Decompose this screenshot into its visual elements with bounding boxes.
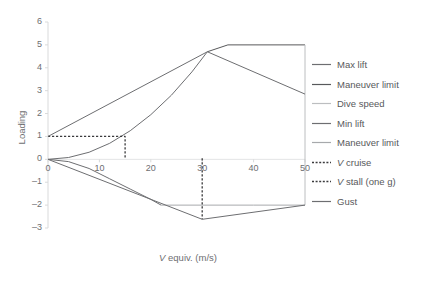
legend-label: V stall (one g): [337, 177, 396, 187]
y-axis-label: Loading: [16, 98, 27, 158]
x-axis-label: V equiv. (m/s): [108, 252, 268, 263]
legend-swatch-icon: [312, 138, 331, 147]
y-tick-label: 2: [20, 109, 42, 118]
y-tick-label: –1: [20, 177, 42, 186]
legend-item[interactable]: Maneuver limit: [312, 133, 426, 153]
x-tick-label: 10: [87, 164, 111, 173]
y-tick-label: 4: [20, 63, 42, 72]
legend-swatch-icon: [312, 119, 331, 128]
legend-item[interactable]: Max lift: [312, 55, 426, 75]
series-line-0: [48, 52, 207, 160]
series-line-7: [48, 52, 305, 137]
v-n-diagram-figure: Loading V equiv. (m/s) 6543210–1–2–3 010…: [0, 0, 428, 284]
legend-label: Maneuver limit: [337, 138, 399, 148]
legend-swatch-icon: [312, 177, 331, 186]
y-tick-label: 1: [20, 131, 42, 140]
y-tick-label: 3: [20, 86, 42, 95]
y-tick-label: –3: [20, 223, 42, 232]
series-line-1: [207, 45, 305, 52]
y-tick-label: 6: [20, 17, 42, 26]
legend-label: Dive speed: [337, 99, 385, 109]
legend-swatch-icon: [312, 158, 331, 167]
y-tick-label: –2: [20, 200, 42, 209]
legend-label: Min lift: [337, 119, 364, 129]
y-tick-label: 5: [20, 40, 42, 49]
chart-legend: Max liftManeuver limitDive speedMin lift…: [312, 55, 426, 211]
legend-item[interactable]: Dive speed: [312, 94, 426, 114]
legend-item[interactable]: Gust: [312, 192, 426, 212]
legend-item[interactable]: Maneuver limit: [312, 75, 426, 95]
legend-label: Max lift: [337, 60, 367, 70]
legend-label: Maneuver limit: [337, 80, 399, 90]
legend-label-symbol: V: [337, 157, 343, 168]
series-line-6: [48, 136, 125, 159]
legend-item[interactable]: Min lift: [312, 114, 426, 134]
legend-label: Gust: [337, 197, 357, 207]
x-tick-label: 0: [36, 164, 60, 173]
legend-label: V cruise: [337, 158, 371, 168]
y-tick-label: 0: [20, 154, 42, 163]
x-tick-label: 40: [242, 164, 266, 173]
series-group: [48, 45, 305, 219]
legend-swatch-icon: [312, 197, 331, 206]
x-tick-label: 30: [190, 164, 214, 173]
legend-swatch-icon: [312, 99, 331, 108]
legend-label-symbol: V: [337, 176, 343, 187]
legend-swatch-icon: [312, 60, 331, 69]
x-axis-label-text: equiv. (m/s): [165, 252, 217, 263]
legend-item[interactable]: V cruise: [312, 153, 426, 173]
legend-item[interactable]: V stall (one g): [312, 172, 426, 192]
axes-group: [45, 22, 305, 228]
x-tick-label: 20: [139, 164, 163, 173]
legend-swatch-icon: [312, 80, 331, 89]
